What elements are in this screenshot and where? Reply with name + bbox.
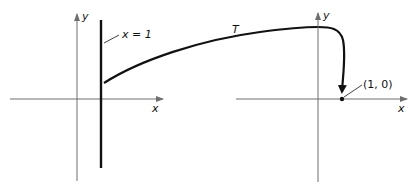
diagram-canvas: y x x = 1 T y x (1, 0) <box>0 0 418 196</box>
point-label-leader <box>344 85 362 97</box>
right-x-axis-label: x <box>397 102 405 115</box>
right-y-axis-label: y <box>322 9 330 22</box>
right-plane: y x (1, 0) <box>236 9 407 182</box>
line-label-leader <box>104 35 119 43</box>
left-plane: y x x = 1 <box>10 10 163 181</box>
left-x-axis-label: x <box>151 102 159 115</box>
curve-label: T <box>232 23 240 36</box>
point-label: (1, 0) <box>363 78 393 91</box>
point-1-0 <box>340 97 344 101</box>
left-y-axis-label: y <box>81 10 89 23</box>
line-label: x = 1 <box>121 28 152 41</box>
